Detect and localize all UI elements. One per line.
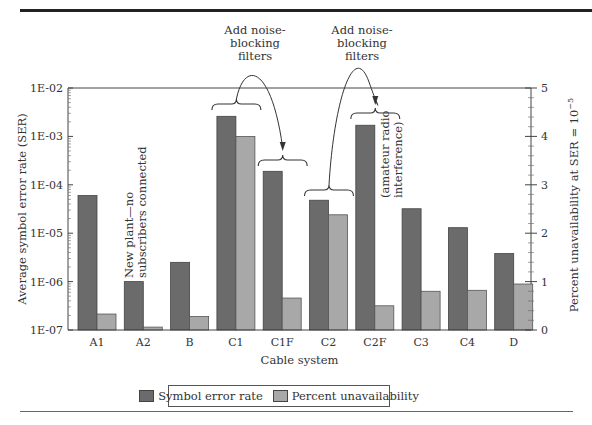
x-tick-label: C1 (228, 336, 243, 349)
y-right-tick-label: 2 (541, 227, 548, 240)
bar-ser-d (495, 254, 514, 330)
bar-unavailability-a1 (97, 314, 116, 330)
x-tick-label: C2 (321, 336, 336, 349)
bar-unavailability-c4 (467, 290, 486, 330)
legend-swatch-ser (139, 390, 154, 402)
y-right-tick-label: 5 (541, 82, 548, 95)
y-right-tick-label: 4 (541, 130, 548, 143)
legend-item-unavailability: Percent unavailability (273, 389, 419, 403)
legend: Symbol error rate Percent unavailability (168, 385, 390, 407)
y-tick-label: 1E-07 (30, 324, 63, 337)
bar-ser-c1f (263, 171, 282, 330)
y-right-tick-label: 0 (541, 324, 548, 337)
y-axis-title: Average symbol error rate (SER) (15, 113, 29, 305)
bar-ser-c2 (310, 200, 329, 330)
bar-ser-c3 (402, 209, 421, 330)
bar-unavailability-c3 (421, 291, 440, 330)
bar-ser-c2f (356, 125, 375, 330)
bracket-c2f (351, 108, 400, 119)
bar-unavailability-c2f (375, 306, 394, 330)
y-right-tick-label: 1 (541, 276, 548, 289)
y-tick-label: 1E-06 (30, 276, 63, 289)
bar-unavailability-c2 (329, 215, 348, 330)
x-tick-label: C1F (271, 336, 294, 349)
y-right-tick-label: 3 (541, 179, 548, 192)
annotation-amateur-radio: (amateur radio (378, 111, 392, 198)
annotation-filters-c1: blocking (230, 36, 280, 50)
annotation-filters-c2: blocking (337, 36, 387, 50)
x-tick-label: A1 (89, 336, 105, 349)
bar-ser-c4 (448, 228, 467, 330)
x-tick-label: D (509, 336, 518, 349)
bar-unavailability-b (190, 316, 209, 330)
annotation-filters-c1: Add noise- (223, 23, 285, 37)
x-axis-title: Cable system (261, 353, 339, 367)
bracket-c1f (258, 155, 307, 166)
x-tick-label: C4 (460, 336, 475, 349)
annotation-new-plant: New plant—no (122, 192, 136, 278)
x-tick-label: C3 (413, 336, 428, 349)
bar-ser-a2 (124, 282, 143, 330)
y-tick-label: 1E-04 (30, 179, 63, 192)
annotation-filters-c1: filters (238, 49, 272, 63)
x-tick-label: C2F (363, 336, 386, 349)
annotation-filters-c2: Add noise- (330, 23, 392, 37)
bar-ser-b (171, 262, 190, 330)
bracket-c2 (305, 185, 354, 196)
annotation-amateur-radio: interference) (391, 121, 405, 198)
bar-unavailability-d (514, 284, 533, 330)
bottom-rule (20, 411, 573, 412)
annotation-filters-c2: filters (345, 49, 379, 63)
legend-swatch-unavailability (273, 390, 288, 402)
legend-item-ser: Symbol error rate (139, 389, 263, 403)
y-right-axis-title: Percent unavailability at SER = 10−5 (566, 98, 581, 312)
bar-unavailability-c1 (236, 136, 255, 330)
bar-ser-a1 (78, 196, 97, 330)
annotation-new-plant: subscribers connected (135, 146, 149, 278)
bar-unavailability-c1f (282, 298, 301, 330)
y-tick-label: 1E-05 (30, 227, 63, 240)
bracket-c1 (212, 99, 261, 110)
bar-ser-c1 (217, 116, 236, 330)
bar-chart: A1A2BC1C1FC2C2FC3C4D1E-021E-031E-041E-05… (0, 0, 592, 425)
legend-label-ser: Symbol error rate (158, 389, 263, 403)
y-tick-label: 1E-03 (30, 130, 63, 143)
arrowhead-icon (280, 142, 286, 151)
x-tick-label: A2 (135, 336, 151, 349)
y-tick-label: 1E-02 (30, 82, 63, 95)
legend-label-unavailability: Percent unavailability (292, 389, 419, 403)
x-tick-label: B (186, 336, 194, 349)
